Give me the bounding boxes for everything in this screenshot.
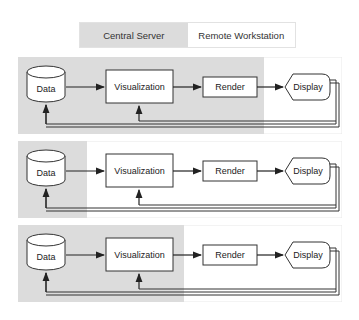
render-label: Render (215, 82, 245, 92)
data-node: Data (27, 66, 65, 102)
display-label: Display (293, 250, 323, 260)
legend: Central Server Remote Workstation (79, 22, 296, 48)
panel-config-1: Data Visualization Render Display (18, 57, 342, 134)
data-node: Data (27, 150, 65, 186)
panel-config-3: Data Visualization Render Display (18, 225, 342, 302)
display-label: Display (293, 82, 323, 92)
data-node: Data (27, 234, 65, 270)
visualization-label: Visualization (114, 82, 164, 92)
panel-config-2: Data Visualization Render Display (18, 141, 342, 218)
legend-remote-workstation: Remote Workstation (188, 23, 296, 47)
data-label: Data (36, 252, 55, 262)
pipeline-diagram: Data Visualization Render Display (18, 225, 342, 302)
visualization-label: Visualization (114, 250, 164, 260)
data-label: Data (36, 168, 55, 178)
legend-central-server: Central Server (80, 23, 188, 47)
display-label: Display (293, 166, 323, 176)
pipeline-diagram: Data Visualization Render Display (18, 57, 342, 134)
visualization-label: Visualization (114, 166, 164, 176)
render-label: Render (215, 250, 245, 260)
data-label: Data (36, 84, 55, 94)
render-label: Render (215, 166, 245, 176)
pipeline-diagram: Data Visualization Render Display (18, 141, 342, 218)
